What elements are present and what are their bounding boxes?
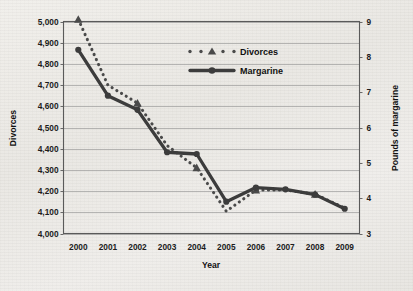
- left-tick-label: 4,700: [38, 80, 59, 90]
- data-point-margarine: [342, 206, 348, 212]
- data-point-margarine: [194, 151, 200, 157]
- right-tick-label: 8: [367, 52, 372, 62]
- left-tick-label: 5,000: [38, 17, 59, 27]
- right-tick-label: 3: [367, 229, 372, 239]
- legend-triangle-marker: [208, 48, 216, 55]
- right-tick-label: 6: [367, 123, 372, 133]
- x-tick-label: 2002: [128, 242, 147, 252]
- left-tick-label: 4,800: [38, 59, 59, 69]
- dotted-line-triangle-icon: [188, 48, 235, 55]
- series-layer: [74, 15, 348, 212]
- x-tick-label: 2005: [217, 242, 236, 252]
- left-tick-label: 4,600: [38, 101, 59, 111]
- legend-dot: [232, 50, 235, 53]
- x-axis-title: Year: [202, 260, 221, 270]
- legend-item-divorces[interactable]: Divorces: [188, 47, 278, 57]
- x-axis-ticks: 2000200120022003200420052006200720082009: [69, 242, 354, 252]
- left-tick-label: 4,000: [38, 229, 59, 239]
- data-point-margarine: [282, 186, 288, 192]
- legend-label-divorces: Divorces: [240, 47, 278, 57]
- left-tick-label: 4,400: [38, 144, 59, 154]
- left-tick-label: 4,900: [38, 38, 59, 48]
- x-tick-label: 2003: [158, 242, 177, 252]
- legend-label-margarine: Margarine: [240, 66, 283, 76]
- left-tick-label: 4,300: [38, 165, 59, 175]
- x-tick-label: 2001: [99, 242, 118, 252]
- x-tick-label: 2007: [276, 242, 295, 252]
- right-tick-label: 9: [367, 17, 372, 27]
- left-tick-label: 4,100: [38, 207, 59, 217]
- x-tick-label: 2000: [69, 242, 88, 252]
- left-tick-label: 4,200: [38, 186, 59, 196]
- data-point-margarine: [134, 107, 140, 113]
- data-point-margarine: [75, 47, 81, 53]
- data-point-margarine: [312, 192, 318, 198]
- right-tick-label: 7: [367, 87, 372, 97]
- left-axis-title: Divorces: [8, 110, 18, 147]
- left-tick-label: 4,500: [38, 123, 59, 133]
- x-tick-label: 2009: [335, 242, 354, 252]
- data-point-divorces: [74, 15, 82, 23]
- data-point-margarine: [223, 199, 229, 205]
- legend-dot: [221, 50, 224, 53]
- right-axis-ticks: 3456789: [360, 17, 372, 239]
- left-axis-ticks: 4,0004,1004,2004,3004,4004,5004,6004,700…: [38, 17, 64, 239]
- legend-circle-marker: [209, 67, 216, 74]
- series-line-divorces: [78, 19, 344, 211]
- right-tick-label: 4: [367, 193, 372, 203]
- legend-dot: [199, 50, 202, 53]
- dual-axis-line-chart: 4,0004,1004,2004,3004,4004,5004,6004,700…: [0, 0, 413, 291]
- right-tick-label: 5: [367, 158, 372, 168]
- data-point-margarine: [164, 149, 170, 155]
- legend-item-margarine[interactable]: Margarine: [190, 66, 283, 76]
- x-tick-label: 2006: [247, 242, 266, 252]
- data-point-margarine: [253, 184, 259, 190]
- chart-legend: Divorces Margarine: [188, 47, 283, 76]
- x-tick-label: 2004: [187, 242, 206, 252]
- chart-canvas: 4,0004,1004,2004,3004,4004,5004,6004,700…: [0, 0, 413, 291]
- x-tick-label: 2008: [306, 242, 325, 252]
- solid-line-circle-icon: [190, 67, 234, 74]
- right-axis-title: Pounds of margarine: [390, 85, 400, 171]
- data-point-margarine: [105, 93, 111, 99]
- legend-dot: [188, 50, 191, 53]
